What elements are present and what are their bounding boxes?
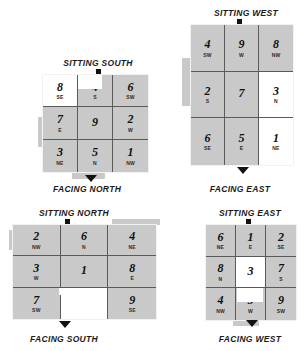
cell-direction: NE <box>56 161 63 166</box>
cell-direction: SW <box>203 53 211 58</box>
cell-direction: W <box>248 309 253 314</box>
cell-number: 5 <box>92 146 98 158</box>
grid-cell[interactable]: 2 S <box>191 72 225 119</box>
grid-cell[interactable]: 6 N <box>61 225 109 256</box>
cell-direction: NW <box>272 53 281 58</box>
grid-cell[interactable]: 3 W <box>13 256 61 287</box>
cell-direction: SW <box>32 308 40 313</box>
grid-cell[interactable]: 1 NW <box>113 140 148 172</box>
grid-cell[interactable]: 2 SE <box>266 225 296 257</box>
grid-cell[interactable]: 1 E <box>236 225 266 257</box>
cell-number: 4 <box>205 38 211 50</box>
grid-cell[interactable]: 6 SE <box>191 118 225 165</box>
cell-number: 7 <box>278 262 284 274</box>
grid-cell-center[interactable]: 3 <box>236 257 266 289</box>
grid-3x3: 4 SW 9 W 8 NW 2 S 7 <box>190 24 294 166</box>
diagram-title: SITTING WEST <box>214 8 278 18</box>
grid-cell[interactable]: 5 N <box>78 140 113 172</box>
cell-number: 9 <box>92 116 98 128</box>
facing-arrow <box>59 321 71 328</box>
cell-number: 9 <box>278 294 284 306</box>
grid-cell[interactable]: 1 NE <box>259 118 293 165</box>
cell-direction: E <box>58 128 62 133</box>
cell-number: 9 <box>239 38 245 50</box>
grid-cell[interactable]: 7 E <box>43 107 78 139</box>
grid-sitting-east: 6 NE 1 E 2 SE 8 N 3 <box>205 224 297 321</box>
grid-3x3: 6 NE 1 E 2 SE 8 N 3 <box>205 224 297 321</box>
grid-cell-center[interactable]: 9 <box>78 107 113 139</box>
grid-cell[interactable]: 2 W <box>113 107 148 139</box>
grid-cell[interactable]: 9 SW <box>266 288 296 320</box>
cell-direction: NW <box>32 245 41 250</box>
cell-direction: S <box>206 99 210 104</box>
cell-number: 1 <box>128 146 134 158</box>
cell-number: 2 <box>128 113 134 125</box>
cell-direction: W <box>128 128 133 133</box>
diagram-sitting-west: SITTING WEST 4 SW 9 W 8 NW 2 S <box>190 8 302 194</box>
facing-arrow <box>246 320 258 327</box>
cell-direction: NE <box>272 146 279 151</box>
cell-direction: W <box>239 53 244 58</box>
grid-cell[interactable]: 6 NE <box>206 225 236 257</box>
grid-cell[interactable]: 9 SE <box>108 288 156 319</box>
diagram-sitting-north: SITTING NORTH 2 NW 6 N 4 NE 3 <box>12 208 162 344</box>
cell-direction: E <box>240 146 244 151</box>
cell-number: 2 <box>278 231 284 243</box>
cell-number: 8 <box>129 262 135 274</box>
grid-sitting-south: 8 SE 4 S 6 SW 7 E 9 <box>42 74 149 173</box>
cell-direction: SE <box>129 308 136 313</box>
porch-notch-right <box>92 288 106 295</box>
grid-sitting-west: 4 SW 9 W 8 NW 2 S 7 <box>190 24 294 166</box>
grid-cell[interactable]: 7 SW <box>13 288 61 319</box>
diagram-title: SITTING EAST <box>219 208 281 218</box>
grid-cell[interactable]: 8 E <box>108 256 156 287</box>
grid-cell[interactable]: 6 SW <box>113 75 148 107</box>
grid-cell[interactable]: 5 E <box>225 118 259 165</box>
flying-star-charts-canvas: SITTING SOUTH 8 SE 4 S 6 SW 7 <box>0 0 307 351</box>
grid-cell[interactable]: 4 NW <box>206 288 236 320</box>
grid-cell[interactable]: 3 N <box>259 72 293 119</box>
cell-direction: SE <box>277 245 284 250</box>
cell-number: 2 <box>33 230 39 242</box>
grid-cell-center[interactable]: 7 <box>225 72 259 119</box>
diagram-caption: FACING SOUTH <box>30 334 98 344</box>
diagram-sitting-south: SITTING SOUTH 8 SE 4 S 6 SW 7 <box>42 58 154 194</box>
diagram-sitting-east: SITTING EAST 6 NE 1 E 2 SE 8 N <box>205 208 305 344</box>
cell-direction: S <box>93 95 97 100</box>
cell-number: 7 <box>33 294 39 306</box>
grid-cell[interactable]: 3 NE <box>43 140 78 172</box>
cell-direction: NE <box>128 245 135 250</box>
grid-cell[interactable]: 2 NW <box>13 225 61 256</box>
cell-direction: S <box>279 277 283 282</box>
grid-cell[interactable]: 9 W <box>225 25 259 72</box>
cell-number: 6 <box>218 231 224 243</box>
cell-number: 8 <box>273 38 279 50</box>
cell-direction: E <box>249 245 253 250</box>
diagram-caption: FACING NORTH <box>53 184 121 194</box>
cell-direction: SE <box>204 146 211 151</box>
diagram-caption: FACING WEST <box>219 334 281 344</box>
grid-cell[interactable]: 8 NW <box>259 25 293 72</box>
cell-number: 6 <box>128 81 134 93</box>
cell-number: 8 <box>57 81 63 93</box>
cell-number: 6 <box>205 132 211 144</box>
grid-cell[interactable]: 8 N <box>206 257 236 289</box>
cell-number: 1 <box>81 264 87 276</box>
cell-direction: N <box>93 161 97 166</box>
cell-number: 3 <box>248 265 254 277</box>
grid-cell[interactable]: 7 S <box>266 257 296 289</box>
facade-notch <box>78 75 102 89</box>
grid-cell[interactable]: 4 SW <box>191 25 225 72</box>
cell-direction: N <box>82 245 86 250</box>
cell-direction: E <box>130 276 134 281</box>
porch-notch-left <box>59 288 73 295</box>
cell-direction: W <box>34 276 39 281</box>
cell-direction: N <box>274 99 278 104</box>
center-extension-notch <box>237 288 263 302</box>
cell-number: 2 <box>205 85 211 97</box>
grid-cell[interactable]: 8 SE <box>43 75 78 107</box>
cell-number: 8 <box>218 262 224 274</box>
cell-number: 7 <box>57 113 63 125</box>
grid-cell-center[interactable]: 1 <box>61 256 109 287</box>
grid-cell[interactable]: 4 NE <box>108 225 156 256</box>
